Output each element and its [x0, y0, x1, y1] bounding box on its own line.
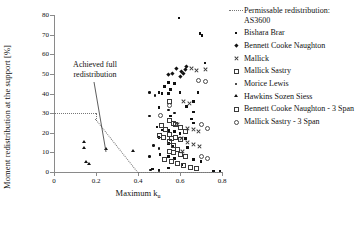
data-point — [197, 91, 200, 94]
x-tick — [54, 172, 55, 176]
data-point — [179, 91, 182, 94]
data-point — [186, 146, 189, 149]
y-tick — [50, 133, 54, 134]
data-point — [178, 125, 183, 130]
data-point — [194, 166, 199, 171]
data-point — [158, 147, 161, 150]
x-tick — [96, 172, 97, 176]
y-tick-label: 0 — [46, 169, 50, 176]
y-tick-label: 70 — [42, 31, 49, 38]
data-point — [131, 149, 135, 152]
y-tick-label: 20 — [42, 129, 49, 136]
data-point — [163, 127, 168, 132]
data-point — [190, 118, 193, 121]
data-point — [171, 150, 176, 155]
y-axis-title: Moment redistribution at the support [%] — [1, 0, 13, 225]
data-point — [178, 17, 181, 20]
data-point — [149, 169, 152, 172]
dotted-line-icon — [229, 10, 243, 11]
legend-item[interactable]: Mallick Sastry — [228, 66, 356, 76]
data-point — [82, 146, 86, 149]
open-circle-icon — [234, 120, 239, 125]
data-point — [179, 132, 182, 135]
data-point — [104, 147, 108, 150]
x-axis-title: Maximum ku — [54, 188, 222, 198]
legend-marker-open-square-small-icon — [228, 104, 244, 114]
legend-item[interactable]: Mallick — [228, 54, 356, 64]
x-axis-title-subscript: u — [157, 193, 160, 199]
data-point — [204, 62, 207, 65]
data-point — [152, 144, 155, 147]
data-point — [171, 71, 175, 75]
data-point — [148, 115, 151, 118]
legend-item[interactable]: Morice Lewis — [228, 79, 356, 89]
legend-item[interactable]: Hawkins Sozen Siess — [228, 92, 356, 102]
legend-marker-triangle-icon — [228, 92, 244, 102]
data-point — [169, 159, 174, 164]
legend-item-label: Hawkins Sozen Siess — [244, 92, 356, 102]
legend-marker-open-square-icon — [228, 66, 244, 76]
data-point — [173, 82, 176, 85]
data-point — [185, 140, 190, 145]
filled-diamond-icon — [234, 44, 238, 48]
legend-marker-filled-circle-icon — [228, 79, 244, 89]
legend-item[interactable]: Bennett Cooke Naughton - 3 Span — [228, 104, 356, 114]
triangle-icon — [234, 94, 238, 97]
legend-marker-filled-diamond-icon — [228, 41, 244, 51]
data-point — [183, 154, 188, 159]
data-point — [173, 130, 176, 133]
y-tick-label: 60 — [42, 51, 49, 58]
y-tick-label: 10 — [42, 149, 49, 156]
figure-container: Moment redistribution at the support [%]… — [0, 0, 356, 225]
legend-item[interactable]: Permissable redistribution: AS3600 — [228, 6, 356, 25]
y-tick-label: 80 — [42, 12, 49, 19]
legend-marker-dotted-line-icon — [228, 6, 244, 16]
legend-item-label: Mallick — [244, 54, 356, 64]
data-point — [181, 99, 186, 104]
y-tick — [50, 15, 54, 16]
data-point — [158, 169, 161, 172]
legend-marker-filled-square-icon — [228, 28, 244, 38]
data-point — [167, 103, 172, 108]
legend-item-label: Permissable redistribution: AS3600 — [244, 6, 356, 25]
data-point — [167, 167, 170, 170]
data-point — [192, 100, 195, 103]
data-point — [175, 161, 180, 166]
y-tick — [50, 94, 54, 95]
data-point — [156, 126, 159, 129]
data-point — [203, 79, 208, 84]
data-point — [203, 67, 208, 72]
legend-item[interactable]: Bennett Cooke Naughton — [228, 41, 356, 51]
y-tick — [50, 74, 54, 75]
data-point — [183, 129, 188, 134]
y-tick — [50, 35, 54, 36]
data-point — [148, 91, 151, 94]
x-tick — [222, 172, 223, 176]
y-tick-label: 50 — [42, 70, 49, 77]
filled-square-icon — [235, 32, 238, 35]
data-point — [192, 158, 195, 161]
legend-item[interactable]: Mallick Sastry - 3 Span — [228, 117, 356, 127]
data-point — [87, 162, 91, 165]
data-point — [148, 155, 151, 158]
data-point — [162, 157, 167, 162]
data-point — [173, 112, 176, 115]
y-tick — [50, 152, 54, 153]
y-axis-line — [54, 15, 55, 172]
data-point — [169, 88, 172, 91]
data-point — [158, 106, 161, 109]
data-point — [163, 85, 166, 88]
legend-marker-cross-icon — [228, 54, 244, 64]
annotation-achieved-full-redistribution: Achieved full redistribution — [60, 60, 130, 80]
data-point — [82, 140, 86, 143]
data-point — [158, 113, 163, 118]
data-point — [197, 144, 202, 149]
data-point — [169, 136, 174, 141]
data-point — [189, 66, 194, 71]
data-point — [199, 122, 204, 127]
data-point — [196, 129, 201, 134]
y-tick-label: 40 — [42, 90, 49, 97]
cross-icon — [234, 56, 239, 61]
data-point — [200, 160, 203, 163]
legend-item[interactable]: Bishara Brar — [228, 28, 356, 38]
